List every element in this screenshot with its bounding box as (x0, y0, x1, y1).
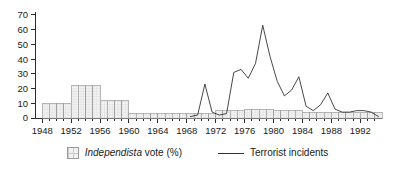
legend-entry-terrorist-incidents: Terrorist incidents (218, 148, 328, 158)
x-axis: 1948195219561960196419681972197619801984… (32, 118, 382, 136)
bar (331, 112, 338, 118)
bar (42, 103, 49, 118)
bar (201, 114, 208, 118)
bar (346, 112, 353, 118)
y-tick-label: 10 (17, 98, 28, 109)
bar (281, 111, 288, 118)
bar (180, 114, 187, 118)
bar (266, 109, 273, 118)
bar (122, 100, 129, 118)
bar (339, 112, 346, 118)
x-tick-label: 1984 (292, 125, 313, 136)
y-axis: 010203040506070 (17, 9, 35, 123)
y-tick-label: 30 (17, 68, 28, 79)
x-tick-label: 1968 (176, 125, 197, 136)
bar (78, 86, 85, 118)
bar (209, 114, 216, 118)
x-tick-label: 1964 (147, 125, 168, 136)
bar (353, 112, 360, 118)
y-tick-label: 60 (17, 24, 28, 35)
bar (368, 112, 375, 118)
chart-figure: 010203040506070 194819521956196019641968… (0, 0, 395, 172)
bar (302, 112, 309, 118)
y-tick-label: 40 (17, 54, 28, 65)
bar-series-independista-vote (42, 86, 382, 118)
bar (143, 114, 150, 118)
bar (252, 109, 259, 118)
bar (165, 114, 172, 118)
bar (295, 111, 302, 118)
bar (288, 111, 295, 118)
bar (129, 114, 136, 118)
bar (71, 86, 78, 118)
y-tick-label: 50 (17, 39, 28, 50)
x-tick-label: 1980 (263, 125, 284, 136)
bar (274, 111, 281, 118)
bar (151, 114, 158, 118)
x-tick-label: 1992 (350, 125, 371, 136)
bar (230, 111, 237, 118)
y-tick-label: 20 (17, 83, 28, 94)
bar (86, 86, 93, 118)
x-tick-label: 1952 (61, 125, 82, 136)
bar (310, 112, 317, 118)
x-tick-label: 1948 (32, 125, 53, 136)
bar (324, 112, 331, 118)
bar (245, 109, 252, 118)
x-tick-label: 1988 (321, 125, 342, 136)
terrorist-incidents-line (190, 25, 378, 116)
bar-swatch-icon (67, 147, 79, 159)
line-series-terrorist-incidents (190, 25, 378, 116)
bar (93, 86, 100, 118)
legend-label-terrorist-incidents: Terrorist incidents (250, 148, 328, 158)
bar (115, 100, 122, 118)
y-tick-label: 70 (17, 9, 28, 20)
bar (237, 111, 244, 118)
bar (136, 114, 143, 118)
x-tick-label: 1956 (89, 125, 110, 136)
bar (57, 103, 64, 118)
bar (64, 103, 71, 118)
legend-entry-independista-vote: Independista vote (%) (67, 147, 182, 159)
bar (100, 100, 107, 118)
bar (317, 112, 324, 118)
chart-legend: Independista vote (%) Terrorist incident… (0, 140, 395, 166)
bar (259, 109, 266, 118)
x-tick-label: 1960 (118, 125, 139, 136)
x-tick-label: 1976 (234, 125, 255, 136)
bar (49, 103, 56, 118)
legend-label-italic-part: Independista (85, 147, 142, 158)
y-tick-label: 0 (23, 112, 28, 123)
legend-label-independista-vote: Independista vote (%) (85, 148, 182, 158)
x-tick-label: 1972 (205, 125, 226, 136)
line-swatch-icon (218, 153, 244, 154)
bar (158, 114, 165, 118)
bar (107, 100, 114, 118)
bar (360, 112, 367, 118)
legend-label-plain-part: vote (%) (142, 147, 182, 158)
bar (172, 114, 179, 118)
